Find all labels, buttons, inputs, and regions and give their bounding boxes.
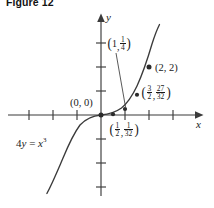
numerator: 1	[120, 36, 126, 44]
left-paren: (	[107, 36, 111, 51]
point-1-1over4	[123, 107, 127, 111]
point-2-2	[147, 65, 152, 70]
x-axis-label: x	[196, 118, 201, 130]
denominator: 32	[156, 92, 166, 101]
equation-equals-sign: =	[29, 137, 35, 149]
fraction-27over32: 2732	[156, 85, 166, 102]
denominator: 32	[124, 129, 134, 138]
y-axis-arrowhead	[97, 14, 105, 23]
left-paren: (	[109, 122, 113, 137]
point-label-1-1over4: (1,14)	[107, 36, 131, 53]
fraction-1over2: 12	[115, 122, 121, 139]
numerator: 1	[124, 122, 134, 130]
point-half-1over32	[111, 112, 115, 116]
numerator: 3	[147, 85, 153, 93]
numerator: 27	[156, 85, 166, 93]
fraction-3over2: 32	[147, 85, 153, 102]
right-paren: )	[134, 122, 138, 137]
point-0-0	[99, 113, 104, 118]
fraction-1over4: 14	[120, 36, 126, 53]
point-3over2-27over32	[135, 93, 139, 97]
denominator: 2	[147, 92, 153, 101]
equation-exponent: 3	[43, 136, 47, 144]
point-label-half-1over32: (12,132)	[109, 122, 139, 139]
left-paren: (	[141, 85, 145, 100]
y-axis-label: y	[106, 11, 111, 23]
cubic-curve	[47, 25, 160, 194]
right-paren: )	[166, 85, 170, 100]
denominator: 4	[120, 43, 126, 52]
point-label-0-0: (0, 0)	[70, 97, 93, 108]
equation-lhs-variable: y	[22, 137, 27, 149]
point-label-2-2: (2, 2)	[155, 62, 178, 73]
figure-container: Figure 12	[0, 0, 214, 208]
coordinate-plot	[0, 0, 214, 208]
point-label-3over2-27over32: (32,2732)	[141, 85, 171, 102]
equation-label: 4y = x3	[16, 136, 47, 149]
right-paren: )	[127, 36, 131, 51]
denominator: 2	[115, 129, 121, 138]
numerator: 1	[115, 122, 121, 130]
leader-line-1-1over4	[116, 53, 126, 107]
fraction-1over32: 132	[124, 122, 134, 139]
